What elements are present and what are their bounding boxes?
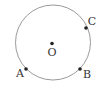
point-o-label: O <box>47 46 56 59</box>
point-a-dot <box>24 67 28 71</box>
point-c-label: C <box>88 15 96 28</box>
point-b-label: B <box>83 68 91 81</box>
point-a-label: A <box>15 67 25 80</box>
circle-diagram: OABC <box>0 0 103 87</box>
points-layer: OABC <box>15 15 96 81</box>
point-o-dot <box>50 42 54 46</box>
point-b-dot <box>78 67 82 71</box>
